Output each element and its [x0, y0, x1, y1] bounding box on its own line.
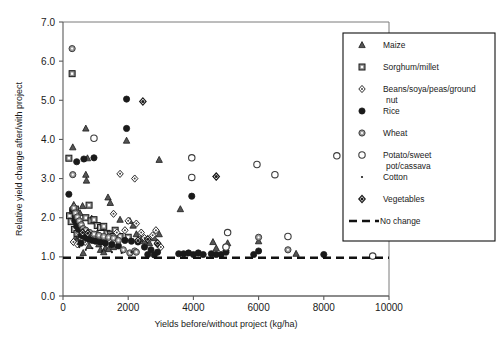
data-point-diamond-open: [122, 227, 128, 234]
data-point-diamond-open: [132, 175, 138, 182]
legend-label-sorghum-millet: Sorghum/millet: [383, 62, 440, 72]
data-point-circle-filled: [359, 108, 365, 114]
legend-label-maize: Maize: [383, 40, 406, 50]
y-axis: 0.01.02.03.04.05.06.07.0: [41, 17, 63, 302]
data-point-dot-small: [78, 246, 80, 248]
data-point-dot-small: [85, 249, 87, 251]
data-point-circle-filled: [122, 237, 128, 243]
legend-label-beans-soya-peas-ground: Beans/soya/peas/ground: [383, 84, 476, 94]
data-point-triangle-grey: [117, 216, 123, 222]
data-point-circle-filled: [141, 244, 147, 250]
data-point-circle-filled: [256, 248, 262, 254]
data-point-circle-open: [370, 253, 376, 259]
legend-label-continued: pot/cassava: [386, 161, 431, 171]
data-point-triangle-grey: [210, 239, 216, 245]
data-point-dot-small: [121, 252, 123, 254]
data-point-circle-grey: [285, 247, 291, 253]
data-point-triangle-grey: [70, 144, 76, 150]
legend-label-rice: Rice: [383, 106, 400, 116]
data-point-triangle-grey: [79, 203, 85, 209]
data-point-square-grey: [359, 64, 365, 70]
data-point-circle-open: [285, 233, 291, 239]
legend-label-potato-sweet: Potato/sweet: [383, 150, 432, 160]
data-point-circle-grey: [359, 130, 365, 136]
data-point-circle-open: [223, 244, 229, 250]
y-tick-label: 4.0: [41, 134, 55, 145]
y-tick-label: 2.0: [41, 212, 55, 223]
data-point-triangle-grey: [83, 125, 89, 131]
data-point-diamond-grey: [140, 98, 146, 105]
x-tick-label: 4000: [182, 302, 205, 313]
data-point-square-grey: [69, 71, 75, 77]
data-point-triangle-grey: [177, 206, 183, 212]
data-point-circle-filled: [123, 96, 129, 102]
data-point-circle-filled: [66, 191, 72, 197]
legend-label-vegetables: Vegetables: [383, 194, 424, 204]
data-point-circle-filled: [102, 240, 108, 246]
data-point-dot-small: [361, 176, 363, 178]
y-tick-label: 5.0: [41, 95, 55, 106]
data-point-circle-filled: [176, 251, 182, 257]
data-point-circle-filled: [200, 251, 206, 257]
data-point-triangle-grey: [123, 137, 129, 143]
y-tick-label: 0.0: [41, 291, 55, 302]
scatter-plot: 0.01.02.03.04.05.06.07.0 020004000600080…: [0, 0, 504, 348]
y-tick-label: 1.0: [41, 251, 55, 262]
data-point-dot-small: [101, 250, 103, 252]
data-point-circle-filled: [123, 125, 129, 131]
x-axis: 0200040006000800010000: [60, 296, 403, 313]
data-point-triangle-grey: [293, 250, 299, 256]
data-point-circle-open: [254, 161, 260, 167]
data-point-circle-filled: [78, 240, 84, 246]
legend-label-cotton: Cotton: [383, 172, 408, 182]
faint-top-title: [150, 0, 370, 10]
data-point-square-grey: [91, 217, 97, 223]
data-point-circle-grey: [120, 247, 126, 253]
data-point-circle-grey: [69, 46, 75, 52]
data-point-circle-open: [189, 155, 195, 161]
y-tick-label: 6.0: [41, 56, 55, 67]
data-point-circle-open: [224, 229, 230, 235]
data-point-circle-filled: [128, 238, 134, 244]
legend-label-continued: nut: [386, 95, 398, 105]
y-tick-label: 7.0: [41, 17, 55, 28]
legend-label-wheat: Wheat: [383, 128, 408, 138]
data-point-circle-open: [272, 171, 278, 177]
data-point-square-grey: [101, 223, 107, 229]
data-point-triangle-grey: [156, 156, 162, 162]
x-tick-label: 8000: [313, 302, 336, 313]
data-point-triangle-grey: [83, 171, 89, 177]
x-tick-label: 2000: [117, 302, 140, 313]
x-axis-title: Yields before/without project (kg/ha): [154, 319, 297, 329]
data-point-triangle-grey: [83, 177, 89, 183]
data-points-layer: [66, 46, 376, 260]
data-point-triangle-grey: [213, 245, 219, 251]
data-point-diamond-grey: [213, 173, 219, 180]
data-point-square-grey: [66, 155, 72, 161]
x-tick-label: 10000: [375, 302, 403, 313]
data-point-circle-filled: [189, 193, 195, 199]
data-point-circle-filled: [109, 241, 115, 247]
data-point-circle-grey: [256, 234, 262, 240]
data-point-circle-filled: [81, 156, 87, 162]
legend: MaizeSorghum/milletBeans/soya/peas/groun…: [343, 33, 495, 241]
data-point-diamond-open: [117, 170, 123, 177]
data-point-dot-small: [111, 251, 113, 253]
data-point-circle-open: [91, 135, 97, 141]
y-axis-title: Relative yield change after/with project: [14, 81, 24, 236]
data-point-circle-open: [334, 153, 340, 159]
data-point-circle-grey: [115, 237, 121, 243]
data-point-dot-small: [91, 247, 93, 249]
data-point-circle-open: [359, 152, 365, 158]
x-tick-label: 0: [60, 302, 66, 313]
y-tick-label: 3.0: [41, 173, 55, 184]
data-point-circle-grey: [133, 249, 139, 255]
data-point-circle-grey: [70, 172, 76, 178]
data-point-circle-open: [189, 174, 195, 180]
figure-root: 0.01.02.03.04.05.06.07.0 020004000600080…: [0, 0, 504, 348]
legend-label-no-change: No change: [380, 216, 421, 226]
x-tick-label: 6000: [247, 302, 270, 313]
data-point-circle-filled: [91, 155, 97, 161]
data-point-circle-filled: [74, 159, 80, 165]
data-point-diamond-open: [110, 210, 116, 217]
